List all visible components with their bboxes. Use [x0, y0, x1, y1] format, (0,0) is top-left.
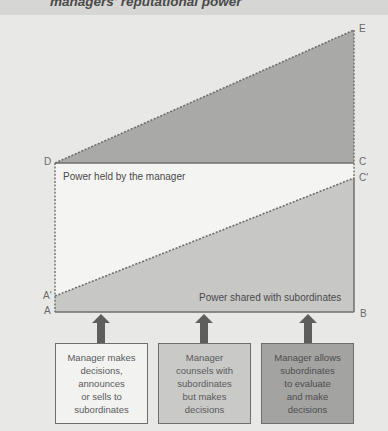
label-a-prime: A'	[43, 290, 52, 301]
arrow-up-icon	[195, 314, 213, 343]
box-text-line: or sells to	[67, 390, 135, 403]
arrow-up-icon	[92, 314, 110, 343]
label-c: C	[359, 156, 366, 167]
box-text-line: to evaluate	[274, 377, 341, 390]
arrows	[92, 314, 317, 343]
box-manager-counsels: Manager counsels with subordinates but m…	[158, 343, 251, 424]
box-text-line: counsels with	[176, 364, 233, 377]
shared-region-label: Power shared with subordinates	[199, 292, 341, 303]
label-e: E	[359, 23, 366, 34]
box-text-line: Manager makes	[67, 351, 135, 364]
box-manager-decides: Manager makes decisions, announces or se…	[55, 343, 148, 424]
arrow-up-icon	[299, 314, 317, 343]
box-text-line: subordinates	[274, 364, 341, 377]
box-text-line: and make	[274, 390, 341, 403]
box-text-line: decisions,	[67, 364, 135, 377]
label-d: D	[44, 156, 51, 167]
box-subordinates-decide: Manager allows subordinates to evaluate …	[261, 343, 354, 424]
box-text-line: decisions	[176, 403, 233, 416]
box-text-line: Manager allows	[274, 351, 341, 364]
label-b: B	[360, 308, 367, 319]
box-text-line: Manager	[176, 351, 233, 364]
box-text-line: announces	[67, 377, 135, 390]
box-text-line: subordinates	[176, 377, 233, 390]
label-c-prime: C'	[359, 172, 368, 183]
box-text-line: but makes	[176, 390, 233, 403]
label-a: A	[44, 305, 51, 316]
box-text-line: subordinates	[67, 403, 135, 416]
manager-region-label: Power held by the manager	[63, 171, 185, 182]
box-text-line: decisions	[274, 403, 341, 416]
